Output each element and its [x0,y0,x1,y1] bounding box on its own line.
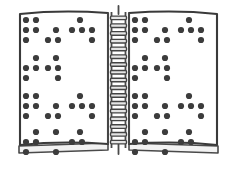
braille-dot [23,75,29,81]
braille-dot [55,65,61,71]
braille-dot [53,129,59,135]
braille-dot [33,65,39,71]
braille-dot [53,27,59,33]
braille-dot [33,17,39,23]
braille-dot [23,65,29,71]
coil-rung [111,133,127,137]
braille-dot [79,139,85,145]
braille-dot [186,93,192,99]
braille-dot [45,113,51,119]
spiral-binding [111,6,127,154]
braille-dot [162,129,168,135]
braille-dot [132,65,138,71]
braille-book-icon: Line-art icon of an open book with spira… [0,0,237,190]
braille-dot [77,129,83,135]
braille-dot [188,139,194,145]
braille-dot [69,103,75,109]
braille-dot [154,37,160,43]
braille-dot [45,65,51,71]
braille-dot [164,65,170,71]
coil-rung [111,125,127,129]
braille-dot [55,75,61,81]
braille-dot [33,93,39,99]
coil-rung [111,102,127,106]
braille-dot [55,37,61,43]
braille-dot [132,27,138,33]
braille-dot [55,113,61,119]
braille-dot [162,149,168,155]
braille-dot [142,139,148,145]
book-illustration: Open spiral-bound braille book [0,0,237,190]
braille-dot [89,37,95,43]
braille-dot [23,27,29,33]
braille-dot [23,93,29,99]
braille-dot [154,113,160,119]
left-page [20,12,108,145]
braille-dot [186,17,192,23]
braille-dot [79,103,85,109]
braille-dot [132,139,138,145]
braille-dot [33,103,39,109]
braille-dot [142,103,148,109]
coil-rung [111,32,127,36]
braille-dot [132,113,138,119]
coil-rung [111,16,127,20]
braille-dot [132,93,138,99]
braille-dot [186,129,192,135]
braille-dot [23,139,29,145]
braille-dot [53,103,59,109]
coil-rung [111,63,127,67]
braille-dot [132,103,138,109]
braille-dot [132,17,138,23]
braille-dot [23,103,29,109]
coil-rung [111,47,127,51]
braille-dot [164,37,170,43]
braille-dot [154,65,160,71]
braille-dot [162,27,168,33]
braille-dot [162,55,168,61]
braille-dot [69,27,75,33]
braille-dot [188,27,194,33]
braille-dot [33,27,39,33]
coil-rung [111,24,127,28]
coil-rung [111,117,127,121]
braille-dot [23,113,29,119]
braille-dot [178,27,184,33]
braille-dot [45,37,51,43]
braille-dot [164,113,170,119]
coil-rung [111,78,127,82]
coil-rung [111,55,127,59]
braille-dot [79,27,85,33]
braille-dot [132,37,138,43]
coil-rung [111,109,127,113]
braille-dot [33,55,39,61]
braille-dot [142,129,148,135]
braille-dot [89,27,95,33]
braille-dot [178,139,184,145]
coil-rung [111,86,127,90]
braille-dot [132,75,138,81]
braille-dot [178,103,184,109]
braille-dot [164,75,170,81]
braille-dot [142,93,148,99]
right-page [129,12,217,145]
braille-dot [23,37,29,43]
braille-dot [142,65,148,71]
braille-dot [198,103,204,109]
braille-dot [77,17,83,23]
braille-dot [89,113,95,119]
coil-rung [111,39,127,43]
braille-dot [198,113,204,119]
coil-rungs [111,16,127,144]
braille-dot [89,103,95,109]
coil-rung [111,70,127,74]
braille-dot [53,149,59,155]
braille-dot [53,55,59,61]
braille-dot [69,139,75,145]
coil-rung [111,94,127,98]
braille-dot [162,103,168,109]
braille-dot [198,27,204,33]
braille-dot [23,149,29,155]
braille-dot [198,37,204,43]
braille-dot [142,27,148,33]
